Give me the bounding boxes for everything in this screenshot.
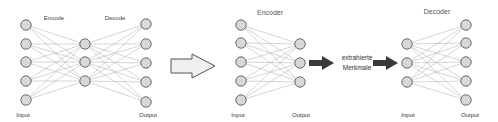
left-edge <box>85 24 146 62</box>
left-node-layer-0 <box>21 39 31 49</box>
left-node-layer-2 <box>141 19 151 29</box>
network-nodes <box>21 19 471 107</box>
encoder-edge <box>241 25 300 44</box>
left-edge <box>85 81 146 102</box>
left-node-layer-2 <box>141 58 151 68</box>
decoder-edge <box>407 43 466 82</box>
decoder-input-label: Input <box>401 112 414 118</box>
decoder-node-layer-0 <box>402 58 412 68</box>
left-node-layer-2 <box>141 97 151 107</box>
left-node-layer-0 <box>21 20 31 30</box>
encoder-edge <box>241 82 300 100</box>
encoder-node-layer-0 <box>236 57 246 67</box>
encoder-edge <box>241 44 300 81</box>
left-node-layer-0 <box>21 76 31 86</box>
encoder-title: Encoder <box>257 9 283 16</box>
left-node-layer-1 <box>80 57 90 67</box>
features-to-decoder-arrow-icon <box>373 56 398 70</box>
left-node-layer-0 <box>21 95 31 105</box>
decoder-edge <box>407 62 466 82</box>
left-edge <box>26 25 85 44</box>
decoder-node-layer-1 <box>461 20 471 30</box>
encoder-node-layer-0 <box>236 76 246 86</box>
big-right-arrow-icon <box>171 54 215 78</box>
decoder-node-layer-1 <box>461 76 471 86</box>
encoder-node-layer-1 <box>295 77 305 87</box>
decoder-node-layer-1 <box>461 95 471 105</box>
encoder-node-layer-0 <box>236 20 246 30</box>
left-edge <box>85 24 146 44</box>
decoder-edge <box>407 43 466 63</box>
extracted-features-label: extrahierte Merkmale <box>342 53 373 73</box>
left-node-layer-1 <box>80 39 90 49</box>
decoder-node-layer-1 <box>461 57 471 67</box>
encoder-node-layer-1 <box>295 58 305 68</box>
decoder-node-layer-0 <box>402 77 412 87</box>
encoder-node-layer-0 <box>236 95 246 105</box>
left-edge <box>26 44 85 100</box>
left-node-layer-2 <box>141 77 151 87</box>
encoder-node-layer-1 <box>295 39 305 49</box>
encode-label: Encode <box>44 15 64 21</box>
left-edge <box>26 81 85 100</box>
encoder-edge <box>241 44 300 100</box>
encoder-edge <box>241 63 300 100</box>
encoder-edge <box>241 44 300 62</box>
features-line-1: extrahierte <box>342 53 373 63</box>
decode-label: Decode <box>105 15 126 21</box>
features-line-2: Merkmale <box>342 63 373 73</box>
left-input-label: Input <box>16 112 29 118</box>
decoder-node-layer-0 <box>402 39 412 49</box>
encoder-to-features-arrow-icon <box>309 56 334 70</box>
decoder-edge <box>407 82 466 100</box>
encoder-node-layer-0 <box>236 38 246 48</box>
decoder-edge <box>407 25 466 82</box>
encoder-input-label: Input <box>231 112 244 118</box>
left-edge <box>26 25 85 62</box>
decoder-output-label: Output <box>461 112 479 118</box>
left-node-layer-0 <box>21 57 31 67</box>
left-node-layer-2 <box>141 39 151 49</box>
autoencoder-diagram <box>0 0 498 122</box>
left-node-layer-1 <box>80 76 90 86</box>
left-edge <box>85 63 146 81</box>
left-output-label: Output <box>139 112 157 118</box>
decoder-title: Decoder <box>424 8 450 15</box>
decoder-node-layer-1 <box>461 38 471 48</box>
decoder-edge <box>407 25 466 44</box>
encoder-output-label: Output <box>292 112 310 118</box>
encoder-edge <box>241 25 300 82</box>
